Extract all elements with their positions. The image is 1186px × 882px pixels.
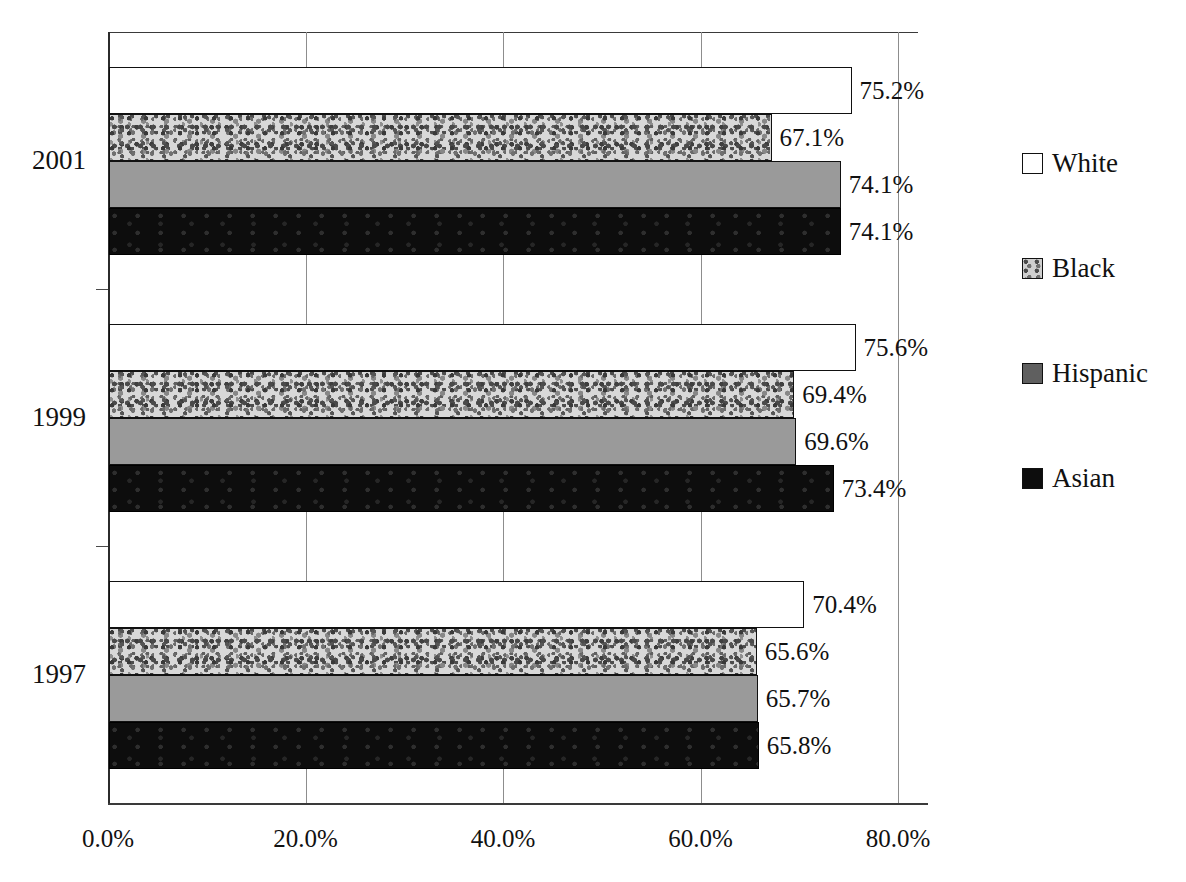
bar-1997-asian xyxy=(109,722,759,769)
legend-item-black[interactable]: Black xyxy=(1022,255,1115,282)
x-tick-label-20: 20.0% xyxy=(273,826,338,851)
data-label-2001-asian: 74.1% xyxy=(849,219,914,244)
x-axis-line xyxy=(108,803,928,805)
bar-2001-white xyxy=(109,67,852,114)
data-label-2001-hispanic: 74.1% xyxy=(849,172,914,197)
bar-2001-black xyxy=(109,114,772,161)
category-axis-tick xyxy=(96,289,108,290)
data-label-1999-black: 69.4% xyxy=(802,382,867,407)
legend-label-black: Black xyxy=(1052,255,1115,282)
bar-1997-hispanic xyxy=(109,675,758,722)
data-label-1997-black: 65.6% xyxy=(765,639,830,664)
data-label-1999-hispanic: 69.6% xyxy=(804,429,869,454)
bar-1997-white xyxy=(109,581,804,628)
legend-item-white[interactable]: White xyxy=(1022,150,1118,177)
x-tick-label-80: 80.0% xyxy=(866,826,931,851)
bar-1999-asian xyxy=(109,465,834,512)
data-label-1997-hispanic: 65.7% xyxy=(766,686,831,711)
category-label-2001: 2001 xyxy=(0,147,86,174)
legend-label-asian: Asian xyxy=(1052,465,1115,492)
bar-1999-black xyxy=(109,371,794,418)
data-label-1997-white: 70.4% xyxy=(812,592,877,617)
legend-swatch-icon-asian xyxy=(1022,468,1043,489)
bar-2001-hispanic xyxy=(109,161,841,208)
legend-item-asian[interactable]: Asian xyxy=(1022,465,1115,492)
bar-2001-asian xyxy=(109,208,841,255)
data-label-1999-white: 75.6% xyxy=(864,335,929,360)
legend-swatch-icon-white xyxy=(1022,153,1043,174)
category-axis-tick xyxy=(96,546,108,547)
plot-top-rule xyxy=(108,32,918,33)
bar-1999-hispanic xyxy=(109,418,796,465)
grouped-bar-chart: 75.2%67.1%74.1%74.1%75.6%69.4%69.6%73.4%… xyxy=(0,0,1186,882)
bar-1999-white xyxy=(109,324,856,371)
gridline-80 xyxy=(898,32,899,804)
legend-label-hispanic: Hispanic xyxy=(1052,360,1148,387)
legend-swatch-icon-black xyxy=(1022,258,1043,279)
x-tick-label-40: 40.0% xyxy=(471,826,536,851)
category-label-1997: 1997 xyxy=(0,661,86,688)
legend-swatch-icon-hispanic xyxy=(1022,363,1043,384)
data-label-1999-asian: 73.4% xyxy=(842,476,907,501)
legend-item-hispanic[interactable]: Hispanic xyxy=(1022,360,1148,387)
x-tick-label-0: 0.0% xyxy=(82,826,134,851)
data-label-2001-white: 75.2% xyxy=(860,78,925,103)
legend-label-white: White xyxy=(1052,150,1118,177)
x-tick-label-60: 60.0% xyxy=(668,826,733,851)
data-label-2001-black: 67.1% xyxy=(780,125,845,150)
bar-1997-black xyxy=(109,628,757,675)
data-label-1997-asian: 65.8% xyxy=(767,733,832,758)
category-label-1999: 1999 xyxy=(0,404,86,431)
